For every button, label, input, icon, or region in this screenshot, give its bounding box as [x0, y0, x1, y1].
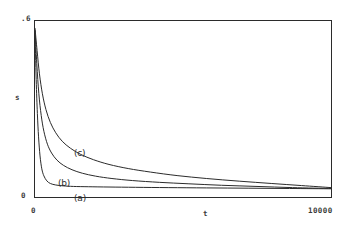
curve-label-c: (c) — [74, 148, 85, 158]
curve-label-a: (a) — [74, 193, 86, 203]
x-axis-tick-left: 0 — [31, 206, 36, 215]
plot-frame — [34, 20, 332, 198]
y-axis-tick-top: .6 — [21, 14, 31, 23]
figure-canvas: .6 0 s 0 10000 t (a) (b) (c) — [0, 0, 357, 239]
x-axis-tick-right: 10000 — [308, 206, 333, 215]
y-axis-title: s — [15, 93, 20, 102]
curve-label-b: (b) — [58, 178, 70, 188]
x-axis-title: t — [203, 209, 208, 218]
y-axis-tick-bottom: 0 — [21, 191, 26, 200]
